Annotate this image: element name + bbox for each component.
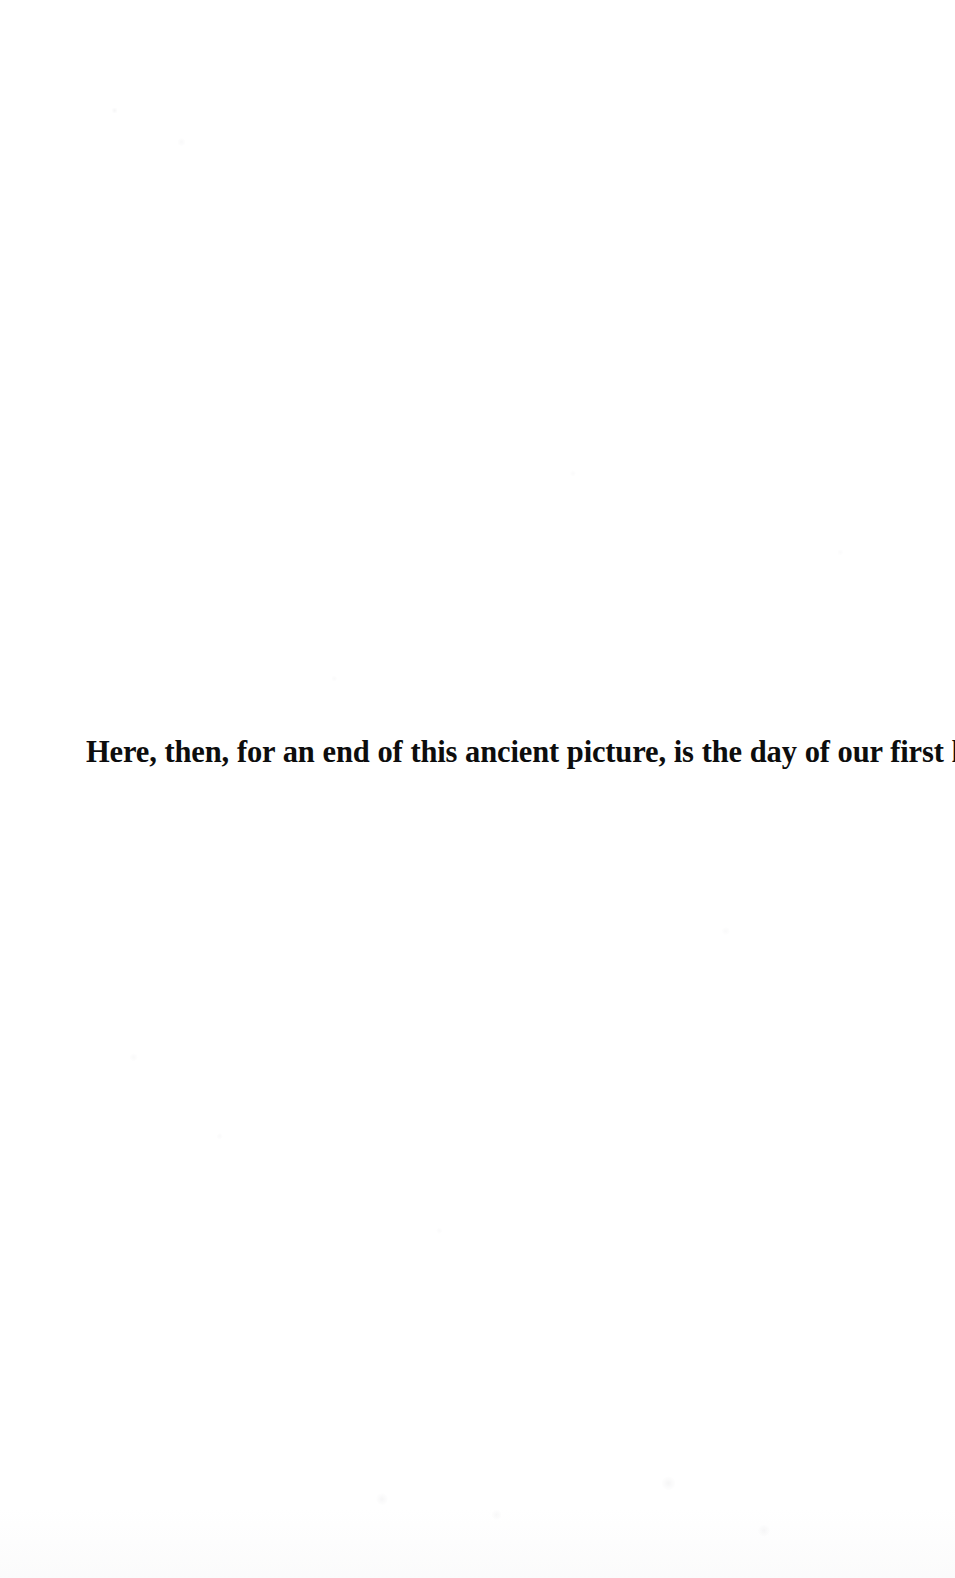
scan-bottom-smudge [0,1508,955,1578]
scanned-page: Here, then, for an end of this ancient p… [0,0,955,1578]
scan-noise-texture [0,0,955,1578]
body-text-line: Here, then, for an end of this ancient p… [86,733,876,771]
